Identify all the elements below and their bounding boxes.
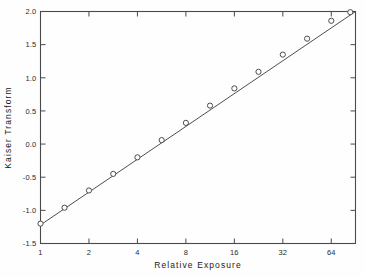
y-tick-label: 0.0 [25, 140, 36, 149]
data-point-marker[interactable] [329, 18, 334, 23]
y-tick-label: -1.5 [23, 239, 37, 248]
x-tick-label: 2 [87, 248, 91, 257]
x-axis-title: Relative Exposure [154, 260, 242, 270]
x-tick-label: 8 [184, 248, 188, 257]
chart-figure: 12481632642.01.51.00.50.0-0.5-1.0-1.5Rel… [0, 0, 365, 277]
data-point-marker[interactable] [111, 171, 116, 176]
data-point-marker[interactable] [62, 205, 67, 210]
data-point-marker[interactable] [207, 103, 212, 108]
data-point-marker[interactable] [135, 155, 140, 160]
x-tick-label: 64 [327, 248, 336, 257]
data-point-marker[interactable] [183, 120, 188, 125]
y-tick-label: 0.5 [25, 107, 36, 116]
x-tick-label: 16 [230, 248, 239, 257]
y-tick-label: 2.0 [25, 7, 36, 16]
plot-frame [41, 12, 356, 244]
kaiser-transform-plot: 12481632642.01.51.00.50.0-0.5-1.0-1.5Rel… [0, 0, 365, 277]
data-point-marker[interactable] [280, 52, 285, 57]
data-point-marker[interactable] [38, 221, 43, 226]
x-tick-label: 1 [38, 248, 42, 257]
data-point-marker[interactable] [159, 137, 164, 142]
data-point-marker[interactable] [86, 188, 91, 193]
y-tick-label: -0.5 [23, 173, 37, 182]
data-point-marker[interactable] [232, 86, 237, 91]
y-tick-label: -1.0 [23, 206, 37, 215]
data-point-marker[interactable] [348, 10, 353, 15]
x-tick-label: 4 [135, 248, 139, 257]
x-tick-label: 32 [278, 248, 287, 257]
y-tick-label: 1.0 [25, 74, 36, 83]
y-tick-label: 1.5 [25, 40, 36, 49]
data-point-marker[interactable] [305, 36, 310, 41]
y-axis-title: Kaiser Transform [3, 86, 13, 168]
data-point-marker[interactable] [256, 69, 261, 74]
